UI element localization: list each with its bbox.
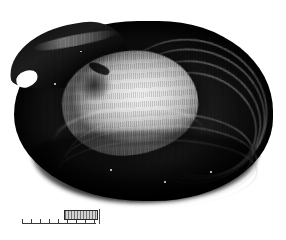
ruler-tick [40,219,41,223]
speck [110,169,112,171]
speck [54,83,56,85]
ruler-baseline [22,223,96,224]
speck [210,171,212,173]
ruler-tick [58,219,59,223]
scale-marker-box [64,210,98,220]
halftone-grain [14,21,273,201]
speck [80,51,82,52]
scale-bar [22,208,102,228]
ruler-tick [22,219,23,223]
ruler-tick [31,219,32,223]
figure-plate [0,0,286,240]
speck [164,181,166,183]
specimen-image [14,21,273,201]
ruler-tick [49,219,50,223]
ruler-end-bar [99,209,100,224]
